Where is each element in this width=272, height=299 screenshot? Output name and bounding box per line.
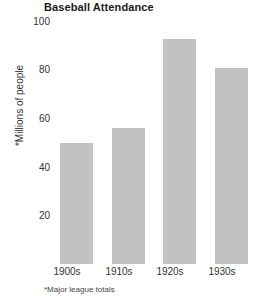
chart-title: Baseball Attendance (44, 1, 154, 13)
bar-slot (163, 22, 196, 264)
x-axis-tick-labels: 1900s 1910s 1920s 1930s (56, 266, 256, 280)
y-tick-label: 20 (39, 211, 50, 221)
y-tick-label: 80 (39, 65, 50, 75)
y-axis-label: *Millions of people (14, 41, 25, 171)
x-tick-label-1930s: 1930s (196, 266, 248, 277)
bar-slot (60, 22, 93, 264)
bar-chart-figure: Baseball Attendance *Millions of people … (0, 0, 272, 299)
y-tick-label: 100 (33, 17, 50, 27)
x-tick-label-1920s: 1920s (144, 266, 196, 277)
chart-footnote: *Major league totals (44, 285, 115, 294)
bar-1920s[interactable] (163, 39, 196, 264)
plot-area (56, 22, 252, 264)
x-tick-label-1910s: 1910s (93, 266, 145, 277)
x-tick-label-1900s: 1900s (41, 266, 93, 277)
bar-1910s[interactable] (112, 128, 145, 264)
bar-slot (112, 22, 145, 264)
y-tick-label: 60 (39, 114, 50, 124)
y-axis-tick-labels: 100 80 60 40 20 (24, 0, 50, 299)
bar-1900s[interactable] (60, 143, 93, 264)
bar-slot (215, 22, 248, 264)
y-tick-label: 40 (39, 163, 50, 173)
bar-1930s[interactable] (215, 68, 248, 264)
